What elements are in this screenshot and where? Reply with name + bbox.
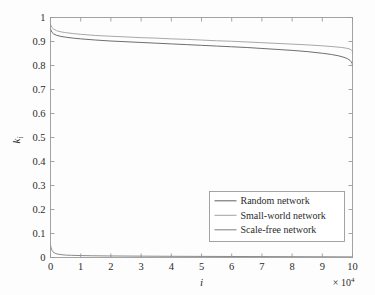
x-tick-label: 0 (48, 261, 53, 272)
x-multiplier-base: × 10 (333, 277, 351, 288)
x-tick-label: 8 (289, 261, 294, 272)
x-tick-label: 2 (108, 261, 113, 272)
y-tick-label: 0.3 (32, 180, 45, 191)
x-tick-label: 1 (78, 261, 83, 272)
y-axis-title-subscript: i (16, 137, 25, 139)
legend-label[interactable]: Scale-free network (241, 224, 317, 235)
x-tick-label: 9 (320, 261, 325, 272)
x-tick-label: 4 (169, 261, 175, 272)
x-tick-label: 6 (229, 261, 234, 272)
legend-label[interactable]: Small-world network (241, 210, 326, 221)
x-axis-title: i (200, 276, 203, 288)
y-tick-label: 0.5 (32, 132, 45, 143)
x-multiplier-exponent: 4 (351, 276, 355, 284)
x-tick-label: 7 (259, 261, 264, 272)
chart-canvas: 00.10.20.30.40.50.60.70.80.91 0123456789… (0, 0, 375, 295)
x-tick-label: 10 (347, 261, 358, 272)
y-tick-label: 0 (40, 252, 45, 263)
chart-legend[interactable]: Random networkSmall-world networkScale-f… (210, 192, 345, 242)
x-tick-label: 5 (199, 261, 204, 272)
y-tick-label: 1 (40, 12, 45, 23)
y-tick-label: 0.4 (32, 156, 46, 167)
legend-label[interactable]: Random network (241, 195, 310, 206)
y-tick-label: 0.9 (32, 36, 45, 47)
y-tick-label: 0.2 (32, 204, 45, 215)
figure-container: 00.10.20.30.40.50.60.70.80.91 0123456789… (0, 0, 375, 295)
y-tick-label: 0.7 (32, 84, 45, 95)
y-tick-label: 0.8 (32, 60, 45, 71)
y-tick-label: 0.1 (32, 228, 45, 239)
x-tick-label: 3 (138, 261, 143, 272)
y-tick-label: 0.6 (32, 108, 45, 119)
